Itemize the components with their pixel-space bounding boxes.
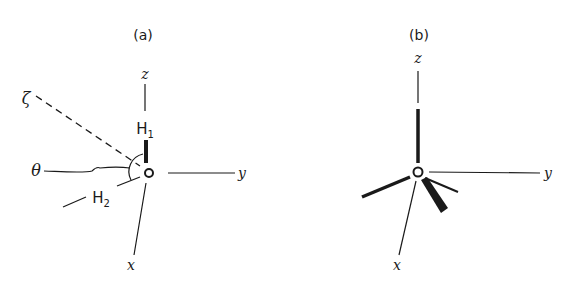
panel-a-theta-label: θ [31,161,41,180]
panel-a-h2-bond [117,177,140,186]
panel-b-y-axis [429,172,540,173]
panel-a-h2-dash [63,197,86,207]
panel-a-z-label: z [140,66,149,82]
panel-a-label: (a) [133,27,153,43]
panel-b: (b) z y x [362,27,553,273]
panel-b-x-axis [399,181,416,255]
panel-b-left-bond [362,177,410,197]
panel-a-h1-label: H1 [136,120,154,140]
panel-a-central-atom [145,169,153,177]
panel-a-x-label: x [127,257,135,273]
panel-b-label: (b) [409,27,429,43]
panel-b-x-label: x [393,257,401,273]
panel-a-x-axis [134,183,146,255]
panel-b-z-label: z [413,50,422,66]
panel-a-theta-pointer [44,167,130,172]
panel-b-y-label: y [543,165,553,181]
panel-a: (a) z H1 y x ζ θ H2 [22,27,247,273]
panel-a-zeta-axis [36,96,140,166]
panel-b-central-atom [414,168,423,177]
panel-a-y-label: y [237,165,247,181]
panel-a-angle-arc [129,154,143,180]
figure-canvas: (a) z H1 y x ζ θ H2 [0,0,576,281]
panel-a-h2-label: H2 [92,189,110,209]
panel-a-zeta-label: ζ [22,89,32,108]
